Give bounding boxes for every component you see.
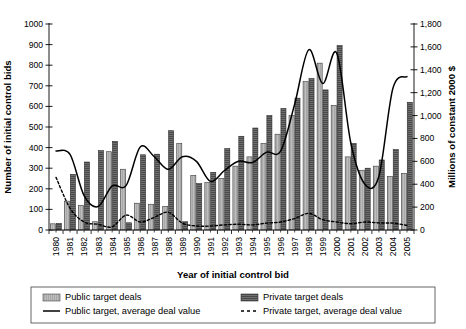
x-tick-label: 1994 [248, 237, 258, 256]
x-tick-label: 2001 [346, 237, 356, 256]
x-tick-label: 1987 [150, 237, 160, 256]
x-tick-label: 1981 [65, 237, 75, 256]
bar-private-target [253, 128, 258, 230]
legend-item[interactable]: Private target, average deal value [241, 306, 402, 316]
bar-public-target [163, 206, 168, 230]
bar-public-target [275, 134, 280, 230]
bar-public-target [373, 166, 378, 230]
y-tick-label-left: 0 [38, 225, 43, 235]
bar-public-target [121, 169, 126, 230]
bar-public-target [205, 183, 210, 230]
bar-public-target [317, 63, 322, 230]
legend-label: Public target deals [65, 292, 142, 302]
y-axis-left-title: Number of initial control bids [2, 60, 13, 193]
legend-label: Private target deals [263, 292, 343, 302]
y-tick-label-right: 600 [420, 156, 435, 166]
bar-public-target [78, 205, 83, 230]
bar-private-target [393, 150, 398, 230]
bar-private-target [155, 154, 160, 230]
x-tick-label: 1980 [51, 237, 61, 256]
x-tick-label: 1982 [79, 237, 89, 256]
bar-private-target [309, 79, 314, 230]
legend-swatch-public-icon [43, 294, 60, 301]
y-tick-label-left: 400 [29, 143, 44, 153]
bar-private-target [295, 98, 300, 230]
bar-private-target [225, 149, 230, 230]
x-tick-label: 1998 [304, 237, 314, 256]
x-tick-label: 1995 [262, 237, 272, 256]
bar-private-target [126, 223, 131, 230]
y-tick-label-left: 100 [29, 204, 44, 214]
bar-public-target [64, 201, 69, 230]
bar-public-target [303, 82, 308, 230]
x-tick-label: 1991 [206, 237, 216, 256]
x-tick-label: 1992 [220, 237, 230, 256]
bar-private-target [323, 90, 328, 230]
chart-figure: 01002003004005006007008009001000 0200400… [0, 0, 466, 329]
y-tick-label-left: 500 [29, 122, 44, 132]
y-tick-label-left: 600 [29, 101, 44, 111]
legend-item[interactable]: Public target, average deal value [43, 306, 200, 316]
bar-public-target [149, 204, 154, 230]
chart-canvas: 01002003004005006007008009001000 0200400… [0, 0, 466, 329]
y-tick-label-left: 900 [29, 40, 44, 50]
bar-private-target [197, 184, 202, 230]
y-tick-label-right: 1,600 [420, 42, 442, 52]
x-tick-label: 1999 [318, 237, 328, 256]
bar-public-target [387, 176, 392, 230]
x-tick-label: 1996 [276, 237, 286, 256]
y-tick-label-right: 0 [420, 225, 425, 235]
legend-label: Private target, average deal value [263, 306, 402, 316]
x-tick-label: 1984 [108, 237, 118, 256]
bar-public-target [401, 173, 406, 230]
y-tick-label-right: 1,200 [420, 88, 442, 98]
y-tick-label-right: 1,000 [420, 111, 442, 121]
bar-private-target [98, 151, 103, 230]
x-tick-label: 1993 [234, 237, 244, 256]
bar-private-target [70, 174, 75, 230]
bar-private-target [267, 116, 272, 230]
x-axis-title: Year of initial control bid [177, 269, 289, 280]
bar-public-target [289, 116, 294, 230]
y-tick-label-left: 800 [29, 60, 44, 70]
y-tick-label-left: 700 [29, 81, 44, 91]
y-tick-label-right: 1,400 [420, 65, 442, 75]
x-tick-label: 1988 [164, 237, 174, 256]
bar-public-target [247, 157, 252, 230]
bar-public-target [50, 224, 55, 230]
y-tick-label-right: 400 [420, 179, 435, 189]
chart-legend: Public target dealsPrivate target dealsP… [31, 287, 435, 323]
bar-public-target [219, 179, 224, 231]
x-tick-label: 2002 [360, 237, 370, 256]
y-tick-label-right: 200 [420, 202, 435, 212]
y-tick-label-right: 800 [420, 133, 435, 143]
x-tick-label: 1989 [178, 237, 188, 256]
x-tick-label: 1986 [136, 237, 146, 256]
x-tick-label: 2003 [374, 237, 384, 256]
x-tick-label: 2000 [332, 237, 342, 256]
bar-public-target [177, 143, 182, 230]
x-tick-label: 1983 [94, 237, 104, 256]
x-tick-label: 1985 [122, 237, 132, 256]
y-tick-label-left: 1000 [24, 19, 43, 29]
bar-public-target [191, 175, 196, 230]
y-tick-label-left: 200 [29, 184, 44, 194]
bar-public-target [331, 105, 336, 230]
y-tick-label-left: 300 [29, 163, 44, 173]
bar-private-target [239, 136, 244, 230]
x-tick-label: 2004 [388, 237, 398, 256]
x-tick-label: 2005 [402, 237, 412, 256]
bar-public-target [135, 203, 140, 230]
bar-public-target [345, 157, 350, 230]
y-tick-label-right: 1,800 [420, 19, 442, 29]
y-axis-right-title: Millions of constant 2000 $ [446, 65, 457, 188]
bar-private-target [365, 168, 370, 230]
legend-swatch-private-icon [241, 294, 258, 301]
bar-private-target [281, 108, 286, 230]
x-tick-label: 1997 [290, 237, 300, 256]
legend-label: Public target, average deal value [65, 306, 200, 316]
bar-public-target [93, 222, 98, 230]
bar-private-target [141, 155, 146, 230]
x-tick-label: 1990 [192, 237, 202, 256]
bar-private-target [56, 223, 61, 230]
